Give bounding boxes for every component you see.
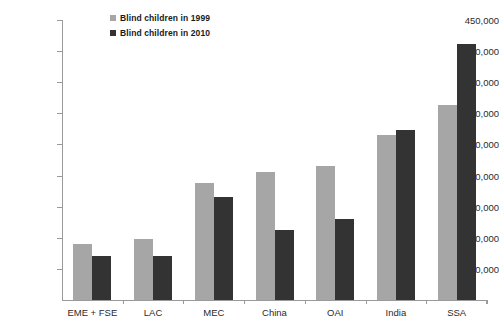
x-axis-line — [62, 300, 487, 301]
bar — [256, 172, 275, 300]
bar — [316, 166, 335, 300]
bar — [275, 230, 294, 300]
bar-chart: Blind children in 1999 Blind children in… — [0, 0, 499, 330]
x-axis-category-label: MEC — [203, 307, 224, 318]
bar — [153, 256, 172, 300]
bar — [134, 239, 153, 300]
bar — [396, 130, 415, 300]
x-axis-tick — [183, 300, 184, 304]
x-axis-category-label: LAC — [144, 307, 162, 318]
plot-area — [62, 20, 487, 300]
bar — [377, 135, 396, 300]
bar — [73, 244, 92, 300]
x-axis-category-label: China — [262, 307, 287, 318]
bar — [195, 183, 214, 300]
bar — [438, 105, 457, 300]
x-axis-tick — [426, 300, 427, 304]
x-axis-category-label: EME + FSE — [67, 307, 117, 318]
x-axis-tick — [487, 300, 488, 304]
bar — [457, 44, 476, 300]
bar — [92, 256, 111, 300]
x-axis-tick — [123, 300, 124, 304]
x-axis-tick — [366, 300, 367, 304]
x-axis-tick — [305, 300, 306, 304]
x-axis-category-label: India — [386, 307, 407, 318]
x-axis-tick — [244, 300, 245, 304]
bar — [335, 219, 354, 301]
x-axis-category-label: OAI — [327, 307, 343, 318]
bar — [214, 197, 233, 300]
x-axis-category-label: SSA — [447, 307, 466, 318]
